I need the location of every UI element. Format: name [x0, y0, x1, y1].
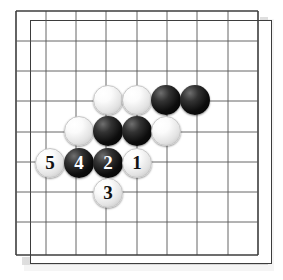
- stone-black: [93, 116, 123, 146]
- stone-black: [122, 116, 152, 146]
- move-stone-1: 1: [122, 148, 152, 178]
- stone-black: [151, 85, 181, 115]
- move-number-label: 3: [103, 183, 113, 202]
- move-number-label: 1: [132, 153, 142, 172]
- move-number-label: 5: [45, 153, 55, 172]
- move-number-label: 2: [103, 153, 113, 172]
- stone-white: [93, 85, 123, 115]
- move-stone-5: 5: [35, 148, 65, 178]
- move-number-label: 4: [74, 153, 84, 172]
- go-diagram-figure: 54213: [0, 0, 283, 280]
- stone-white: [122, 85, 152, 115]
- move-stone-2: 2: [93, 148, 123, 178]
- stone-black: [180, 85, 210, 115]
- move-stone-4: 4: [64, 148, 94, 178]
- stone-white: [64, 116, 94, 146]
- board-border: [30, 20, 272, 264]
- stone-white: [151, 116, 181, 146]
- move-stone-3: 3: [93, 178, 123, 208]
